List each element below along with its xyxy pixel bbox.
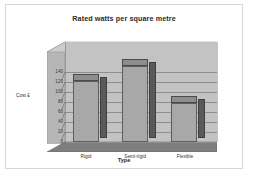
bar-flexible-top	[171, 96, 197, 103]
bar-rigid[interactable]	[73, 81, 99, 142]
bar-flexible[interactable]	[171, 103, 197, 142]
x-axis-title: Type	[6, 157, 242, 163]
bar-semi-rigid[interactable]	[122, 66, 148, 142]
bar-rigid-side	[100, 77, 107, 138]
plot-area: 0 20 40 60 80 100 120 140	[47, 32, 217, 150]
bar-flexible-side	[198, 99, 205, 138]
gridline-0: 0	[65, 142, 217, 143]
chart-frame: Rated watts per square metre 0 20 40 60	[5, 4, 243, 169]
bar-semi-rigid-top	[122, 59, 148, 66]
chart-title: Rated watts per square metre	[6, 14, 242, 23]
y-axis-ticks	[47, 32, 67, 144]
bar-flexible-front	[171, 103, 197, 142]
bar-semi-rigid-side	[149, 62, 156, 138]
y-axis-title: Cost £	[16, 93, 30, 98]
bar-rigid-top	[73, 74, 99, 81]
bar-semi-rigid-front	[122, 66, 148, 142]
bar-rigid-front	[73, 81, 99, 142]
